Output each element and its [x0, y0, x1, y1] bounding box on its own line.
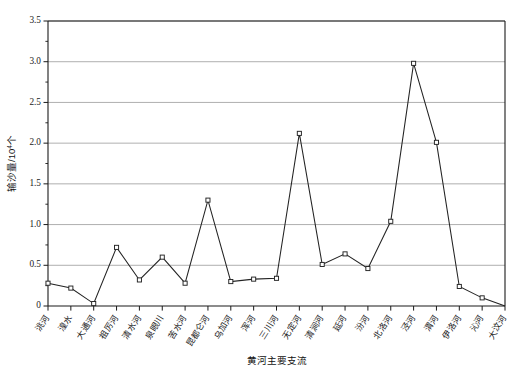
data-point-marker[interactable]: [115, 245, 119, 249]
x-tick-label-text: 北洛河: [371, 312, 395, 341]
x-tick-label-17: 渭河: [421, 312, 440, 333]
x-tick-label-3: 祖厉河: [97, 312, 121, 341]
x-tick-label-text: 祖厉河: [97, 312, 121, 341]
data-point-marker[interactable]: [69, 286, 73, 290]
x-tick-label-text: 渭河: [421, 312, 440, 333]
x-tick-label-text: 浑河: [238, 312, 257, 333]
data-point-marker[interactable]: [297, 131, 301, 135]
y-tick-label: 3.5: [29, 15, 41, 25]
data-point-marker[interactable]: [206, 198, 210, 202]
x-tick-label-10: 三川河: [257, 312, 281, 341]
y-tick-label: 3.0: [29, 56, 41, 66]
x-tick-label-12: 清涧河: [302, 312, 326, 341]
x-tick-label-text: 伊洛河: [439, 312, 463, 341]
data-point-marker[interactable]: [274, 276, 278, 280]
x-axis-ticks: [48, 306, 505, 311]
line-chart: 00.51.01.52.02.53.03.5洮河湟水大通河祖厉河清水河泉眼川苦水…: [0, 0, 522, 374]
x-tick-label-text: 泉眼川: [142, 312, 166, 341]
x-tick-label-5: 泉眼川: [142, 312, 166, 341]
data-point-marker[interactable]: [434, 140, 438, 144]
data-point-marker[interactable]: [137, 278, 141, 282]
x-axis-title: 黄河主要支流: [247, 355, 307, 366]
x-tick-label-16: 泾河: [398, 312, 417, 333]
data-point-marker[interactable]: [480, 296, 484, 300]
x-tick-label-text: 清水河: [119, 312, 143, 341]
x-tick-label-20: 大汶河: [485, 312, 509, 341]
data-point-marker[interactable]: [92, 302, 96, 306]
x-tick-label-text: 大通河: [74, 312, 98, 341]
data-point-marker[interactable]: [183, 281, 187, 285]
x-tick-label-text: 泾河: [398, 312, 417, 333]
x-tick-label-text: 汾河: [353, 312, 372, 333]
x-tick-label-text: 苦水河: [165, 312, 189, 341]
data-point-marker[interactable]: [412, 61, 416, 65]
data-point-marker[interactable]: [389, 219, 393, 223]
y-axis-ticks: 00.51.01.52.02.53.03.5: [29, 15, 48, 310]
x-tick-label-19: 沁河: [467, 312, 486, 333]
x-tick-labels-group: 洮河湟水大通河祖厉河清水河泉眼川苦水河昆都仑河乌加河浑河三川河无定河清涧河延河汾…: [33, 312, 509, 348]
x-tick-label-text: 洮河: [33, 312, 52, 333]
data-point-marker[interactable]: [229, 280, 233, 284]
x-tick-label-text: 大汶河: [485, 312, 509, 341]
y-tick-label: 1.0: [29, 219, 41, 229]
data-point-marker[interactable]: [320, 262, 324, 266]
x-tick-label-18: 伊洛河: [439, 312, 463, 341]
data-point-marker[interactable]: [366, 266, 370, 270]
y-axis-title: 输沙量/104个: [6, 135, 17, 192]
x-tick-label-text: 清涧河: [302, 312, 326, 341]
y-tick-label: 2.0: [29, 137, 41, 147]
data-point-marker[interactable]: [160, 255, 164, 259]
data-point-marker[interactable]: [457, 284, 461, 288]
y-tick-label: 0: [36, 300, 41, 310]
x-tick-label-0: 洮河: [33, 312, 52, 333]
data-point-marker[interactable]: [252, 277, 256, 281]
chart-page: 00.51.01.52.02.53.03.5洮河湟水大通河祖厉河清水河泉眼川苦水…: [0, 0, 522, 374]
data-point-marker[interactable]: [343, 252, 347, 256]
y-tick-label: 1.5: [29, 178, 41, 188]
data-markers-group: [46, 61, 484, 305]
y-tick-label: 0.5: [29, 259, 41, 269]
x-tick-label-text: 无定河: [279, 312, 303, 341]
x-tick-label-11: 无定河: [279, 312, 303, 341]
series-line: [48, 63, 505, 306]
x-tick-label-1: 湟水: [56, 312, 75, 333]
y-axis-title-unit: 个: [6, 135, 17, 145]
x-tick-label-text: 三川河: [257, 312, 281, 341]
x-tick-label-6: 苦水河: [165, 312, 189, 341]
x-tick-label-15: 北洛河: [371, 312, 395, 341]
y-axis-title-base: 输沙量/10: [6, 149, 17, 192]
axes-group: [48, 21, 505, 306]
x-tick-label-text: 湟水: [56, 312, 75, 333]
x-tick-label-13: 延河: [330, 312, 349, 333]
x-tick-label-9: 浑河: [238, 312, 257, 333]
x-tick-label-2: 大通河: [74, 312, 98, 341]
x-tick-label-4: 清水河: [119, 312, 143, 341]
x-tick-label-text: 沁河: [467, 312, 486, 333]
x-tick-label-14: 汾河: [353, 312, 372, 333]
y-tick-label: 2.5: [29, 97, 41, 107]
data-point-marker[interactable]: [46, 281, 50, 285]
y-axis-title-text: 输沙量/104个: [6, 135, 17, 192]
x-tick-label-text: 延河: [330, 312, 349, 333]
x-tick-label-8: 乌加河: [211, 312, 235, 341]
x-tick-label-text: 乌加河: [211, 312, 235, 341]
